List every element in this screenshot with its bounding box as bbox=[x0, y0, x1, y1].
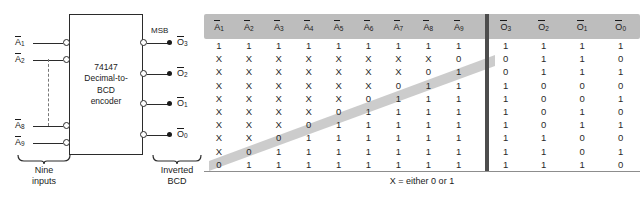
cell-input: 1 bbox=[294, 39, 324, 52]
output-node-O0 bbox=[167, 132, 172, 137]
cell-output: 0 bbox=[563, 79, 601, 92]
figure-root: 74147 Decimal-to- BCD encoder A1 A2 A8 A… bbox=[0, 0, 644, 199]
output-label-O3: O3 bbox=[177, 37, 188, 47]
cell-gap bbox=[474, 39, 487, 52]
cell-output: 1 bbox=[524, 131, 562, 144]
cell-input: X bbox=[234, 92, 264, 105]
cell-input: 0 bbox=[264, 131, 294, 144]
cell-output: 0 bbox=[601, 158, 640, 171]
col-header-A5-sub: 5 bbox=[340, 25, 344, 32]
table-bottom-rule bbox=[204, 171, 640, 172]
col-header-A7: A7 bbox=[383, 14, 413, 39]
cell-input: X bbox=[294, 105, 324, 118]
cell-input: 1 bbox=[354, 131, 384, 144]
chip-74147-body: 74147 Decimal-to- BCD encoder bbox=[69, 14, 143, 155]
cell-input: X bbox=[204, 52, 234, 65]
cell-output: 1 bbox=[563, 158, 601, 171]
cell-output: 1 bbox=[487, 158, 524, 171]
output-label-O3-text: O bbox=[177, 37, 184, 47]
cell-gap bbox=[474, 52, 487, 65]
cell-input: 1 bbox=[413, 118, 443, 131]
col-header-A9: A9 bbox=[443, 14, 474, 39]
input-label-A2: A2 bbox=[15, 54, 25, 64]
col-header-A2: A2 bbox=[234, 14, 264, 39]
cell-input: X bbox=[324, 52, 354, 65]
cell-input: 1 bbox=[443, 92, 474, 105]
cell-input: X bbox=[264, 105, 294, 118]
cell-input: 1 bbox=[354, 145, 384, 158]
cell-input: X bbox=[324, 92, 354, 105]
col-header-A7-sub: 7 bbox=[400, 25, 404, 32]
cell-input: X bbox=[234, 65, 264, 78]
table-row: XX01111111100 bbox=[204, 131, 640, 144]
table-row: 1111111111111 bbox=[204, 39, 640, 52]
cell-gap bbox=[474, 118, 487, 131]
table-row: XXXXXX0111000 bbox=[204, 79, 640, 92]
col-header-A1-sub: 1 bbox=[220, 25, 224, 32]
table-row: XXXX011111010 bbox=[204, 105, 640, 118]
cell-input: X bbox=[294, 65, 324, 78]
cell-input: 1 bbox=[324, 39, 354, 52]
cell-input: 0 bbox=[443, 52, 474, 65]
output-lead-O1 bbox=[147, 104, 169, 105]
cell-input: 0 bbox=[294, 118, 324, 131]
cell-input: X bbox=[354, 79, 384, 92]
col-header-A3-text: A bbox=[274, 22, 280, 32]
cell-input: 1 bbox=[324, 131, 354, 144]
cell-input: X bbox=[204, 118, 234, 131]
cell-output: 0 bbox=[601, 52, 640, 65]
input-label-A2-text: A bbox=[15, 54, 21, 64]
cell-output: 1 bbox=[487, 39, 524, 52]
cell-input: 1 bbox=[324, 118, 354, 131]
output-label-O2-sub: 2 bbox=[184, 71, 188, 78]
cell-output: 0 bbox=[524, 79, 562, 92]
col-header-A4-sub: 4 bbox=[310, 25, 314, 32]
cell-input: X bbox=[234, 105, 264, 118]
msb-label: MSB bbox=[151, 26, 168, 35]
cell-input: 1 bbox=[443, 131, 474, 144]
cell-input: 1 bbox=[443, 65, 474, 78]
cell-input: 1 bbox=[324, 145, 354, 158]
col-header-A3-sub: 3 bbox=[280, 25, 284, 32]
input-brace-label: Nine inputs bbox=[17, 165, 71, 186]
cell-input: X bbox=[413, 52, 443, 65]
cell-output: 1 bbox=[487, 145, 524, 158]
cell-input: 1 bbox=[234, 158, 264, 171]
cell-output: 1 bbox=[487, 131, 524, 144]
col-header-A5-text: A bbox=[334, 22, 340, 32]
cell-gap bbox=[474, 79, 487, 92]
cell-input: X bbox=[264, 92, 294, 105]
col-header-A4-text: A bbox=[304, 22, 310, 32]
cell-input: 1 bbox=[264, 158, 294, 171]
input-label-A8-sub: 8 bbox=[21, 123, 25, 130]
cell-output: 1 bbox=[487, 79, 524, 92]
cell-input: X bbox=[264, 65, 294, 78]
col-header-A8-sub: 8 bbox=[429, 25, 433, 32]
cell-input: 1 bbox=[383, 145, 413, 158]
cell-input: 1 bbox=[354, 39, 384, 52]
truth-table: A1 A2 A3 A4 A5 A6 A7 A8 A9 O3 O2 O1 O0 1… bbox=[204, 14, 640, 184]
cell-input: 1 bbox=[294, 158, 324, 171]
cell-input: 1 bbox=[413, 39, 443, 52]
cell-input: X bbox=[204, 92, 234, 105]
cell-output: 0 bbox=[563, 131, 601, 144]
cell-input: X bbox=[204, 79, 234, 92]
col-header-O0-text: O bbox=[615, 22, 622, 32]
input-label-A9: A9 bbox=[15, 137, 25, 147]
col-header-O0: O0 bbox=[601, 14, 640, 39]
cell-output: 1 bbox=[524, 65, 562, 78]
cell-input: 1 bbox=[413, 158, 443, 171]
col-header-A3: A3 bbox=[264, 14, 294, 39]
output-node-O3 bbox=[167, 40, 172, 45]
output-label-O2-text: O bbox=[177, 68, 184, 78]
cell-input: 1 bbox=[354, 158, 384, 171]
cell-input: 1 bbox=[294, 131, 324, 144]
cell-input: 1 bbox=[264, 145, 294, 158]
cell-input: 1 bbox=[383, 158, 413, 171]
output-brace-icon bbox=[152, 154, 202, 165]
output-lead-O2 bbox=[147, 74, 169, 75]
cell-output: 0 bbox=[601, 79, 640, 92]
truth-table-grid: A1 A2 A3 A4 A5 A6 A7 A8 A9 O3 O2 O1 O0 1… bbox=[204, 14, 640, 171]
input-label-A8: A8 bbox=[15, 120, 25, 130]
col-header-A6-sub: 6 bbox=[370, 25, 374, 32]
